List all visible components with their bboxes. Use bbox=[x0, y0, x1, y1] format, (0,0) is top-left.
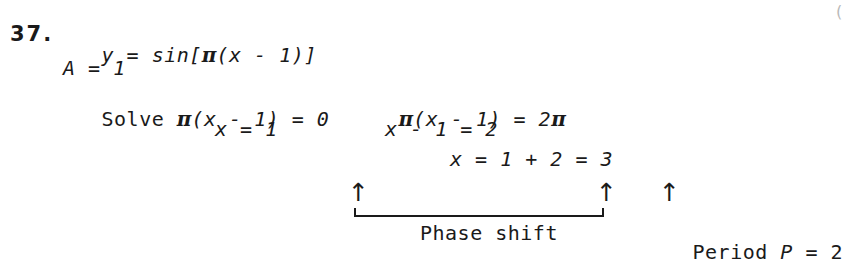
period-label: Period P = 2 bbox=[654, 221, 843, 263]
solve-label: Solve bbox=[102, 107, 177, 131]
pi-symbol-icon: π bbox=[202, 43, 217, 67]
right-step-2: x = 1 + 2 = 3 bbox=[450, 147, 613, 171]
period-label-post: = 2 bbox=[793, 240, 843, 263]
right-step-1: x - 1 = 2 bbox=[385, 117, 498, 141]
pi-symbol-icon: π bbox=[177, 107, 192, 131]
period-label-pre: Period bbox=[693, 240, 781, 263]
phase-shift-label: Phase shift bbox=[420, 221, 558, 245]
period-arrow-icon: ↑ bbox=[659, 180, 680, 205]
problem-number: 37. bbox=[10, 22, 53, 46]
amplitude-line: A = 1 bbox=[63, 56, 126, 80]
bracket-right-tick bbox=[602, 208, 604, 217]
bracket-horizontal-rule bbox=[354, 215, 604, 217]
page-corner-mark: ( bbox=[836, 2, 842, 21]
left-result: x = 1 bbox=[215, 117, 278, 141]
period-variable: P bbox=[780, 240, 793, 263]
equation-rhs: (x - 1)] bbox=[217, 43, 317, 67]
phase-shift-arrow-left-icon: ↑ bbox=[348, 180, 369, 205]
phase-shift-arrow-right-icon: ↑ bbox=[596, 180, 617, 205]
solve-line: Solve π(x - 1) = 0 bbox=[63, 88, 329, 150]
pi-symbol-icon: π bbox=[551, 107, 566, 131]
